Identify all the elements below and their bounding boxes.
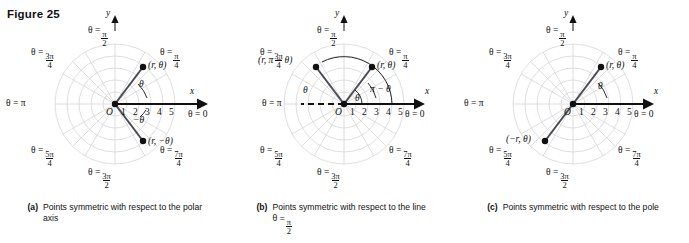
caption-c: (c) Points symmetric with respect to the…	[458, 202, 688, 213]
theta-pi-label-c: θ = π	[464, 99, 483, 109]
frac-den: 4	[631, 60, 637, 70]
caption-line1-c: Points symmetric with	[503, 202, 586, 212]
theta-pi-label-b: θ = π	[262, 99, 281, 109]
angle-prefix: θ =	[260, 145, 272, 155]
angle-label-pi-over-2-a: θ =π2	[88, 26, 108, 48]
caption-text-c: Points symmetric with respect to the pol…	[503, 202, 659, 213]
arc-label-pi-minus-theta-b: π − θ	[370, 85, 391, 95]
frac-den: 4	[504, 158, 510, 168]
frac-num: 3π	[502, 52, 513, 61]
frac-num: 7π	[631, 150, 642, 159]
theta-zero-label-a: θ = 0	[188, 110, 207, 120]
frac-den: 2	[559, 38, 565, 48]
x-axis-label-b: x	[425, 87, 429, 97]
angle-label-pi-over-2-b: θ =π2	[317, 26, 337, 48]
angle-prefix: θ =	[546, 25, 558, 35]
arc-label-theta-c: θ	[598, 82, 603, 92]
tick-2-b: 2	[362, 108, 367, 118]
angle-label-7pi-over-4-c: θ =7π4	[618, 146, 642, 168]
origin-tick-a: O	[106, 108, 113, 118]
panel-c-pole-symmetry: y x θ =π2 θ =π4 θ =3π4 θ =5π4 θ =3π2 θ =…	[458, 0, 688, 243]
frac-num: π	[173, 52, 179, 61]
polar-plot-b: y x θ =π2 θ =π4 θ =3π4 θ =5π4 θ =3π2 θ =…	[229, 4, 459, 199]
point-label-r-theta-b: (r, θ)	[377, 61, 395, 71]
theta-zero-label-c: θ = 0	[634, 110, 653, 120]
x-axis-label-a: x	[190, 87, 194, 97]
polar-plot-c: y x θ =π2 θ =π4 θ =3π4 θ =5π4 θ =3π2 θ =…	[458, 4, 688, 199]
x-axis-arrowhead-b	[414, 99, 425, 110]
point-label-r-theta-a: (r, θ)	[148, 61, 166, 71]
angle-label-3pi-over-4-a: θ =3π4	[31, 48, 55, 70]
frac-num: π	[330, 30, 336, 39]
polar-grid-c	[458, 4, 688, 199]
point-label-r-theta-c: (r, θ)	[606, 61, 624, 71]
frac-num: π	[101, 30, 107, 39]
tick-5-a: 5	[169, 108, 174, 118]
angle-label-3pi-over-2-a: θ =3π2	[88, 168, 112, 190]
angle-label-5pi-over-4-a: θ =5π4	[31, 146, 55, 168]
origin-tick-c: O	[564, 108, 571, 118]
ray-to-r-pi-minus-theta-b	[316, 67, 344, 104]
y-axis-label-b: y	[335, 9, 339, 19]
tick-5-c: 5	[627, 108, 632, 118]
y-axis-label-c: y	[564, 9, 568, 19]
tick-2-c: 2	[591, 108, 596, 118]
caption-text-a: Points symmetric with respect to the pol…	[43, 202, 202, 225]
angle-prefix: θ =	[31, 47, 43, 57]
tick-3-c: 3	[603, 108, 608, 118]
frac-den: 4	[173, 60, 179, 70]
frac-den: 2	[332, 180, 338, 190]
angle-prefix: θ =	[160, 47, 172, 57]
tick-4-a: 4	[157, 108, 162, 118]
frac-num: 5π	[273, 150, 284, 159]
dot-r-theta-c	[598, 64, 604, 70]
frac-den: 4	[46, 60, 52, 70]
dot-r-neg-theta-a	[140, 138, 146, 144]
point-label-neg-r-theta-c: (−r, θ)	[506, 135, 531, 145]
tick-5-b: 5	[398, 108, 403, 118]
frac-den: 4	[175, 158, 181, 168]
frac-num: 3π	[330, 172, 341, 181]
theta-pi-label-a: θ = π	[6, 99, 25, 109]
panel-b-line-theta-pi-over-2-symmetry: y x θ =π2 θ =π4 θ =3π4 θ =5π4 θ =3π2 θ =…	[229, 0, 459, 243]
caption-tag-b: (b)	[257, 202, 268, 236]
polar-plot-a: y x θ =π2 θ =π4 θ =3π4 θ =5π4 θ =3π2 θ =…	[0, 4, 230, 199]
frac-num: π	[559, 30, 565, 39]
angle-prefix: θ =	[618, 145, 630, 155]
angle-label-7pi-over-4-a: θ =7π4	[160, 146, 184, 168]
caption-line1-a: Points symmetric with	[43, 202, 126, 212]
caption-line2-c: respect to the pole	[588, 202, 659, 212]
caption-line1-b: Points symmetric with	[272, 202, 355, 212]
angle-label-3pi-over-4-c: θ =3π4	[489, 48, 513, 70]
polar-grid-a	[0, 4, 230, 199]
angle-prefix: θ =	[160, 145, 172, 155]
x-axis-arrowhead-c	[643, 99, 654, 110]
caption-text-b: Points symmetric with respect to the lin…	[272, 202, 431, 236]
angle-prefix: θ =	[489, 145, 501, 155]
frac-den: 2	[561, 180, 567, 190]
caption-tag-a: (a)	[28, 202, 39, 225]
point-label-r-pi-minus-theta-b: (r, π − θ)	[258, 56, 292, 66]
angle-label-5pi-over-4-c: θ =5π4	[489, 146, 513, 168]
y-axis-arrowhead-b	[340, 15, 347, 23]
frac-den: 2	[103, 180, 109, 190]
frac-den: 4	[46, 158, 52, 168]
arc-label-theta-a: θ	[139, 80, 144, 90]
angle-prefix: θ =	[618, 47, 630, 57]
frac-num: 7π	[173, 150, 184, 159]
point-label-r-neg-theta-a: (r, −θ)	[148, 137, 173, 147]
angle-label-3pi-over-2-c: θ =3π2	[546, 168, 570, 190]
tick-3-b: 3	[374, 108, 379, 118]
angle-prefix: θ =	[88, 167, 100, 177]
origin-tick-b: O	[335, 108, 342, 118]
arc-label-inner-theta-b: θ	[355, 94, 360, 104]
angle-prefix: θ =	[317, 25, 329, 35]
frac-num: 7π	[402, 150, 413, 159]
frac-num: 5π	[44, 150, 55, 159]
tick-1-a: 1	[121, 108, 126, 118]
caption-tag-c: (c)	[487, 202, 498, 213]
caption-frac-den-b: 2	[286, 226, 292, 236]
caption-frac-num-b: π	[286, 218, 292, 227]
tick-1-c: 1	[579, 108, 584, 118]
angle-label-5pi-over-4-b: θ =5π4	[260, 146, 284, 168]
